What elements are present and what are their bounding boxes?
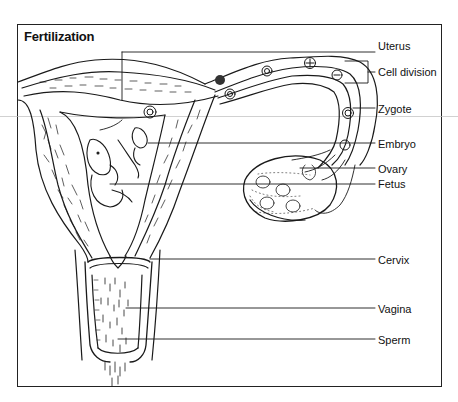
diagram-title: Fertilization: [24, 29, 94, 44]
label-embryo: Embryo: [378, 138, 416, 150]
fetus-figure: [87, 139, 139, 207]
embryo-figure: [132, 128, 147, 165]
label-fetus: Fetus: [378, 178, 406, 190]
label-cervix: Cervix: [378, 254, 409, 266]
vagina-right: [130, 262, 152, 362]
uterus-left-wall: [18, 100, 88, 262]
label-cell-division: Cell division: [378, 66, 437, 78]
sperm-marks: [101, 278, 128, 386]
label-ovary: Ovary: [378, 163, 407, 175]
label-zygote: Zygote: [378, 103, 412, 115]
label-sperm: Sperm: [378, 334, 410, 346]
cervix: [88, 258, 150, 263]
label-uterus: Uterus: [378, 40, 410, 52]
fallopian-tube: [205, 56, 377, 165]
zygote-cell: [343, 108, 354, 119]
label-vagina: Vagina: [378, 303, 411, 315]
